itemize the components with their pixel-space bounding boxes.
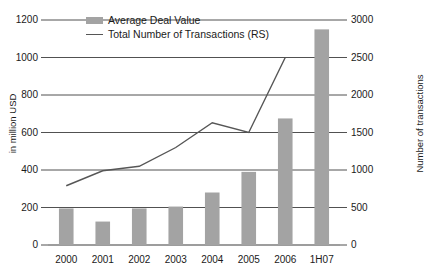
bar-2002: [132, 208, 147, 245]
y-tick-left-800: 800: [4, 90, 38, 100]
y-tick-right-3000: 3000: [351, 15, 391, 25]
bar-2003: [168, 207, 183, 245]
bar-2006: [278, 118, 293, 245]
y-tick-left-1000: 1000: [4, 53, 38, 63]
y-tick-right-1000: 1000: [351, 165, 391, 175]
y-tick-left-200: 200: [4, 203, 38, 213]
y-tick-left-0: 0: [4, 240, 38, 250]
legend-item-line: Total Number of Transactions (RS): [86, 27, 269, 41]
x-tick-2004: 2004: [194, 254, 231, 265]
y-tick-right-2500: 2500: [351, 53, 391, 63]
legend-label-line: Total Number of Transactions (RS): [108, 27, 269, 41]
y-tick-right-0: 0: [351, 240, 391, 250]
x-tick-2000: 2000: [48, 254, 85, 265]
bar-1H07: [314, 29, 329, 245]
y-tick-left-400: 400: [4, 165, 38, 175]
x-tick-2001: 2001: [85, 254, 122, 265]
chart-legend: Average Deal Value Total Number of Trans…: [86, 13, 269, 41]
bar-2001: [95, 222, 110, 245]
y-tick-right-2000: 2000: [351, 90, 391, 100]
x-tick-1H07: 1H07: [304, 254, 341, 265]
x-tick-2002: 2002: [121, 254, 158, 265]
y-tick-right-500: 500: [351, 203, 391, 213]
bar-2000: [59, 208, 74, 245]
legend-swatch-bar-icon: [86, 17, 103, 24]
legend-item-bar: Average Deal Value: [86, 13, 269, 27]
bar-2004: [205, 193, 220, 246]
bar-2005: [241, 172, 256, 245]
x-tick-2006: 2006: [267, 254, 304, 265]
legend-swatch-line-icon: [86, 34, 103, 35]
x-tick-2005: 2005: [231, 254, 268, 265]
legend-label-bar: Average Deal Value: [108, 13, 200, 27]
y-tick-left-1200: 1200: [4, 15, 38, 25]
x-tick-2003: 2003: [158, 254, 195, 265]
y-tick-right-1500: 1500: [351, 128, 391, 138]
y-tick-left-600: 600: [4, 128, 38, 138]
line-series-transactions: [66, 58, 285, 186]
